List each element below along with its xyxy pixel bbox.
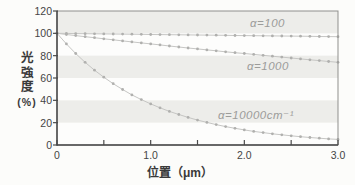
- marker-alpha-1000: [243, 52, 246, 55]
- marker-alpha-1000: [102, 37, 105, 40]
- marker-alpha-1000: [318, 59, 321, 62]
- marker-alpha-100: [299, 35, 302, 38]
- series-label-alpha-100: α=100: [250, 17, 285, 29]
- marker-alpha-10000: [149, 103, 152, 106]
- marker-alpha-100: [93, 32, 96, 35]
- x-axis-title: 位置（μm）: [118, 163, 242, 180]
- marker-alpha-100: [280, 35, 283, 38]
- marker-alpha-10000: [84, 61, 87, 64]
- marker-alpha-1000: [84, 35, 87, 38]
- marker-alpha-1000: [93, 36, 96, 39]
- marker-alpha-10000: [290, 134, 293, 137]
- marker-alpha-10000: [243, 129, 246, 132]
- marker-alpha-100: [327, 35, 330, 38]
- marker-alpha-1000: [112, 38, 115, 41]
- marker-alpha-1000: [234, 51, 237, 54]
- marker-alpha-1000: [224, 50, 227, 53]
- marker-alpha-10000: [196, 119, 199, 122]
- marker-alpha-10000: [177, 113, 180, 116]
- marker-alpha-100: [168, 33, 171, 36]
- marker-alpha-100: [262, 34, 265, 37]
- marker-alpha-10000: [121, 88, 124, 91]
- marker-alpha-100: [234, 34, 237, 37]
- x-tick-label: 0: [42, 149, 72, 161]
- marker-alpha-100: [290, 35, 293, 38]
- series-label-alpha-1000: α=1000: [247, 60, 289, 72]
- marker-alpha-1000: [271, 55, 274, 58]
- marker-alpha-1000: [252, 53, 255, 56]
- marker-alpha-10000: [234, 127, 237, 130]
- marker-alpha-1000: [309, 58, 312, 61]
- marker-alpha-1000: [74, 34, 77, 37]
- y-tick-label: 100: [22, 27, 52, 39]
- marker-alpha-100: [121, 33, 124, 36]
- y-tick-label: 20: [22, 117, 52, 129]
- marker-alpha-10000: [74, 52, 77, 55]
- marker-alpha-100: [177, 33, 180, 36]
- marker-alpha-100: [149, 33, 152, 36]
- marker-alpha-10000: [65, 43, 68, 46]
- marker-alpha-100: [131, 33, 134, 36]
- marker-alpha-1000: [177, 46, 180, 49]
- marker-alpha-10000: [318, 137, 321, 140]
- marker-alpha-10000: [131, 94, 134, 97]
- marker-alpha-1000: [262, 54, 265, 57]
- marker-alpha-100: [215, 34, 218, 37]
- x-tick-label: 1.0: [136, 149, 166, 161]
- marker-alpha-10000: [271, 132, 274, 135]
- marker-alpha-1000: [196, 48, 199, 51]
- x-tick-label: 2.0: [229, 149, 259, 161]
- marker-alpha-100: [196, 34, 199, 37]
- y-tick-label: 40: [22, 94, 52, 106]
- shaded-band: [57, 11, 338, 33]
- marker-alpha-10000: [206, 121, 209, 124]
- marker-alpha-10000: [159, 106, 162, 109]
- x-tick-label: 3.0: [323, 149, 353, 161]
- marker-alpha-10000: [168, 110, 171, 113]
- marker-alpha-100: [84, 32, 87, 35]
- marker-alpha-1000: [65, 33, 68, 36]
- marker-alpha-1000: [121, 40, 124, 43]
- marker-alpha-100: [140, 33, 143, 36]
- marker-alpha-100: [252, 34, 255, 37]
- marker-alpha-100: [318, 35, 321, 38]
- marker-alpha-10000: [224, 125, 227, 128]
- marker-alpha-1000: [149, 43, 152, 46]
- series-label-alpha-10000: α=10000cm⁻¹: [218, 108, 294, 122]
- marker-alpha-100: [224, 34, 227, 37]
- marker-alpha-100: [309, 35, 312, 38]
- marker-alpha-10000: [280, 133, 283, 136]
- marker-alpha-100: [206, 34, 209, 37]
- y-tick-label: 80: [22, 50, 52, 62]
- marker-alpha-10000: [309, 136, 312, 139]
- marker-alpha-100: [271, 35, 274, 38]
- marker-alpha-100: [112, 33, 115, 36]
- shaded-band: [57, 56, 338, 78]
- marker-alpha-100: [102, 33, 105, 36]
- y-tick-label: 120: [22, 5, 52, 17]
- marker-alpha-10000: [93, 69, 96, 72]
- marker-alpha-10000: [112, 82, 115, 85]
- marker-alpha-10000: [252, 130, 255, 133]
- marker-alpha-10000: [327, 138, 330, 141]
- marker-alpha-100: [159, 33, 162, 36]
- marker-alpha-100: [187, 34, 190, 37]
- marker-alpha-1000: [215, 49, 218, 52]
- marker-alpha-1000: [280, 56, 283, 59]
- marker-alpha-1000: [299, 58, 302, 61]
- marker-alpha-10000: [140, 98, 143, 101]
- marker-alpha-1000: [327, 60, 330, 63]
- marker-alpha-1000: [140, 42, 143, 45]
- marker-alpha-10000: [215, 123, 218, 126]
- marker-alpha-1000: [187, 47, 190, 50]
- marker-alpha-10000: [102, 76, 105, 79]
- marker-alpha-10000: [187, 116, 190, 119]
- marker-alpha-1000: [206, 49, 209, 52]
- marker-alpha-100: [243, 34, 246, 37]
- marker-alpha-10000: [299, 135, 302, 138]
- marker-alpha-1000: [131, 41, 134, 44]
- marker-alpha-1000: [290, 57, 293, 60]
- marker-alpha-10000: [262, 131, 265, 134]
- y-tick-label: 60: [22, 72, 52, 84]
- light-intensity-vs-position-chart: 光 強 度 (%) 位置（μm） α=100 α=1000 α=10000cm⁻…: [0, 0, 355, 185]
